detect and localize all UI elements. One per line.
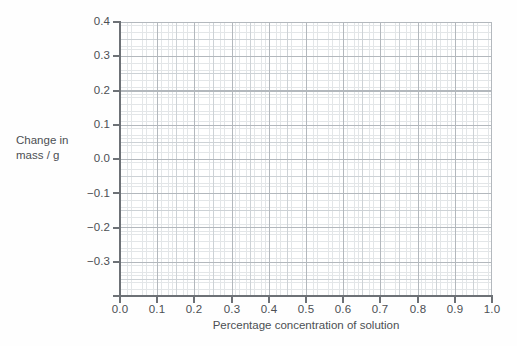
x-tick-label: 1.0 (469, 303, 515, 315)
chart-figure: 0.4 0.3 0.2 0.1 0.0 −0.1 −0.2 −0.3 0.0 0… (0, 0, 517, 346)
y-tick-label: 0.1 (64, 118, 110, 130)
plot-area (120, 22, 492, 296)
y-tick-mark (113, 192, 119, 194)
y-tick-mark (113, 124, 119, 126)
y-tick-label: −0.2 (64, 221, 110, 233)
grid-major (120, 22, 492, 296)
y-tick-label: 0.3 (64, 49, 110, 61)
x-axis-title: Percentage concentration of solution (120, 319, 492, 331)
data-series-layer (120, 22, 492, 296)
y-axis-title-line1: Change in (16, 133, 112, 148)
y-tick-mark (113, 21, 119, 23)
y-tick-label: 0.4 (64, 15, 110, 27)
y-tick-mark (113, 227, 119, 229)
y-tick-label: 0.2 (64, 84, 110, 96)
y-tick-label: −0.1 (64, 187, 110, 199)
y-axis-title: Change in mass / g (16, 133, 112, 163)
y-axis-title-line2: mass / g (16, 148, 112, 163)
y-tick-mark (113, 261, 119, 263)
grid-medium (120, 22, 492, 296)
y-axis-line (119, 21, 121, 297)
grid-border (120, 22, 492, 296)
y-tick-label: −0.3 (64, 255, 110, 267)
y-tick-mark (113, 158, 119, 160)
grid-minor (120, 22, 492, 296)
y-tick-mark (113, 55, 119, 57)
y-tick-mark (113, 90, 119, 92)
